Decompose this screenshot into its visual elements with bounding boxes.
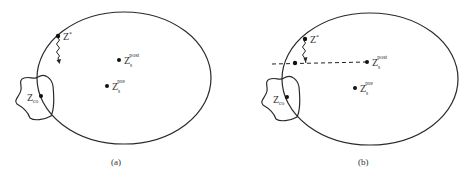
label-z-star: Z* xyxy=(63,31,72,42)
z-co-point xyxy=(285,95,289,99)
z-star-point xyxy=(303,37,307,41)
feasible-region-ellipse xyxy=(282,13,458,145)
panel-b: Z* Zspost Zspre Zco (b) xyxy=(262,13,458,167)
constraint-blob xyxy=(262,76,300,120)
z-star-point xyxy=(56,34,60,38)
z-co-point xyxy=(39,94,43,98)
z-pre-point xyxy=(105,84,109,88)
label-z-pre: Zspre xyxy=(112,78,125,94)
z-post-point xyxy=(365,60,369,64)
panel-a: Z* Zspost Zspre Zco (a) xyxy=(16,12,211,167)
z-pre-point xyxy=(353,86,357,90)
label-z-co: Zco xyxy=(27,92,39,104)
figure-canvas: Z* Zspost Zspre Zco (a) Z* xyxy=(0,0,471,179)
label-z-post: Zspost xyxy=(124,52,140,68)
caption-a: (a) xyxy=(111,157,121,167)
projection-dashed-line xyxy=(272,62,367,64)
caption-b: (b) xyxy=(358,157,369,167)
label-z-co: Zco xyxy=(273,94,285,106)
label-z-star: Z* xyxy=(310,34,319,45)
wavy-path-arrow xyxy=(57,38,60,62)
projected-point xyxy=(293,61,297,65)
label-z-post: Zspost xyxy=(372,54,388,70)
label-z-pre: Zspre xyxy=(360,80,373,96)
arrowhead-icon xyxy=(57,59,62,64)
z-post-point xyxy=(117,58,121,62)
